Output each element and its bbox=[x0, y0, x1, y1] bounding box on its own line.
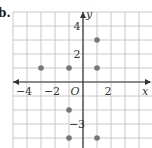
coordinate-plane: −4−2242−3Oxy bbox=[0, 0, 152, 148]
x-tick-label: −2 bbox=[44, 85, 60, 98]
y-tick-label: −3 bbox=[69, 118, 85, 131]
x-axis-label: x bbox=[142, 85, 149, 98]
origin-label: O bbox=[70, 85, 79, 98]
data-point bbox=[94, 135, 100, 141]
y-tick-label: 4 bbox=[74, 20, 81, 33]
data-point bbox=[94, 37, 100, 43]
data-point bbox=[94, 65, 100, 71]
y-axis-label: y bbox=[85, 8, 93, 21]
data-point bbox=[38, 65, 44, 71]
y-tick-label: 2 bbox=[74, 48, 81, 61]
x-tick-label: −4 bbox=[16, 85, 32, 98]
x-tick-label: 2 bbox=[105, 85, 112, 98]
data-point bbox=[66, 135, 72, 141]
data-point bbox=[66, 65, 72, 71]
data-point bbox=[66, 107, 72, 113]
